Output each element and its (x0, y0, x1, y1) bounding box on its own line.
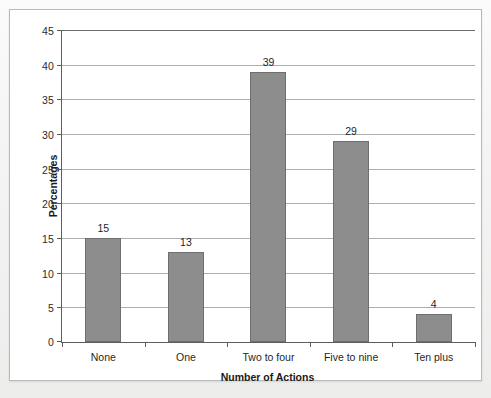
bar-group-five-to-nine[interactable]: 29 Five to nine (310, 30, 393, 342)
bar-five-to-nine[interactable] (333, 141, 369, 342)
bar-ten-plus[interactable] (416, 314, 452, 342)
y-tick-label-20: 20 (42, 198, 54, 210)
x-tick-mark-1 (145, 342, 146, 347)
plot-area: 45 40 35 30 25 (61, 30, 475, 343)
x-tick-mark-0 (62, 342, 63, 347)
y-tick-label-15: 15 (42, 233, 54, 245)
x-category-label-two-to-four: Two to four (243, 351, 295, 363)
y-tick-label-40: 40 (42, 60, 54, 72)
x-tick-mark-2 (227, 342, 228, 347)
bar-group-one[interactable]: 13 One (145, 30, 228, 342)
y-tick-label-35: 35 (42, 94, 54, 106)
bar-value-none: 15 (97, 222, 109, 234)
x-category-label-ten-plus: Ten plus (414, 351, 453, 363)
x-category-label-one: One (176, 351, 196, 363)
bar-value-ten-plus: 4 (431, 298, 437, 310)
x-axis-title: Number of Actions (61, 371, 474, 383)
chart-figure-frame: Percentages 45 40 35 30 (9, 9, 482, 381)
y-tick-label-5: 5 (48, 302, 54, 314)
x-category-label-none: None (91, 351, 116, 363)
bar-one[interactable] (168, 252, 204, 342)
scanned-page: Percentages 45 40 35 30 (0, 0, 491, 398)
x-tick-mark-3 (310, 342, 311, 347)
y-tick-label-45: 45 (42, 25, 54, 37)
x-tick-mark-4 (392, 342, 393, 347)
y-tick-label-30: 30 (42, 129, 54, 141)
bar-value-two-to-four: 39 (263, 56, 275, 68)
bar-group-ten-plus[interactable]: 4 Ten plus (392, 30, 475, 342)
y-tick-label-0: 0 (48, 336, 54, 348)
x-category-label-five-to-nine: Five to nine (324, 351, 378, 363)
bar-none[interactable] (85, 238, 121, 342)
bar-group-none[interactable]: 15 None (62, 30, 145, 342)
bar-group-two-to-four[interactable]: 39 Two to four (227, 30, 310, 342)
bar-value-one: 13 (180, 236, 192, 248)
y-tick-label-25: 25 (42, 164, 54, 176)
bar-two-to-four[interactable] (250, 72, 286, 342)
bar-value-five-to-nine: 29 (345, 125, 357, 137)
plot-wrapper: Percentages 45 40 35 30 (10, 10, 481, 380)
y-tick-label-10: 10 (42, 268, 54, 280)
x-tick-mark-5 (475, 342, 476, 347)
